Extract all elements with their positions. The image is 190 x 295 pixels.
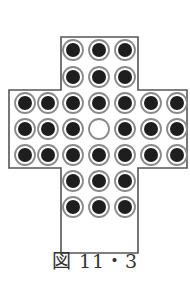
peg-icon [118, 70, 132, 84]
peg-icon [41, 122, 55, 136]
peg [89, 145, 109, 165]
peg-icon [92, 70, 106, 84]
peg [89, 67, 109, 87]
peg [89, 171, 109, 191]
peg-icon [92, 174, 106, 188]
peg-icon [92, 43, 106, 57]
peg-icon [118, 200, 132, 214]
peg [167, 145, 187, 165]
peg-icon [18, 148, 32, 162]
peg [38, 119, 58, 139]
peg [115, 40, 135, 60]
peg [63, 197, 83, 217]
peg [115, 119, 135, 139]
peg-icon [170, 96, 184, 110]
peg-icon [66, 122, 80, 136]
peg-icon [18, 122, 32, 136]
peg-icon [144, 148, 158, 162]
peg [63, 40, 83, 60]
peg [38, 145, 58, 165]
peg [89, 197, 109, 217]
peg [141, 119, 161, 139]
peg-icon [118, 174, 132, 188]
peg-icon [92, 96, 106, 110]
figure-caption: 図 11・3 [0, 246, 190, 273]
peg-icon [118, 43, 132, 57]
peg-icon [92, 148, 106, 162]
peg [141, 93, 161, 113]
peg-solitaire-board [0, 0, 190, 260]
peg-icon [92, 200, 106, 214]
peg [63, 67, 83, 87]
peg-icon [66, 148, 80, 162]
peg [15, 145, 35, 165]
peg [115, 67, 135, 87]
peg-icon [66, 43, 80, 57]
peg [63, 145, 83, 165]
peg [141, 145, 161, 165]
peg-icon [41, 148, 55, 162]
peg [89, 40, 109, 60]
hole-ring-icon [89, 119, 109, 139]
empty-hole [89, 119, 109, 139]
peg [167, 119, 187, 139]
peg [115, 93, 135, 113]
peg-icon [41, 96, 55, 110]
peg [38, 93, 58, 113]
peg [115, 145, 135, 165]
peg-icon [66, 200, 80, 214]
peg [63, 93, 83, 113]
peg-icon [18, 96, 32, 110]
peg [89, 93, 109, 113]
peg-icon [118, 96, 132, 110]
peg [115, 197, 135, 217]
peg-icon [144, 96, 158, 110]
peg-icon [170, 148, 184, 162]
peg-icon [118, 122, 132, 136]
holes-group [15, 40, 187, 217]
peg [15, 119, 35, 139]
peg [15, 93, 35, 113]
peg-icon [118, 148, 132, 162]
peg-icon [66, 174, 80, 188]
peg [167, 93, 187, 113]
peg-icon [66, 70, 80, 84]
peg [63, 171, 83, 191]
peg-icon [66, 96, 80, 110]
peg-icon [170, 122, 184, 136]
peg [115, 171, 135, 191]
peg-icon [144, 122, 158, 136]
peg [63, 119, 83, 139]
